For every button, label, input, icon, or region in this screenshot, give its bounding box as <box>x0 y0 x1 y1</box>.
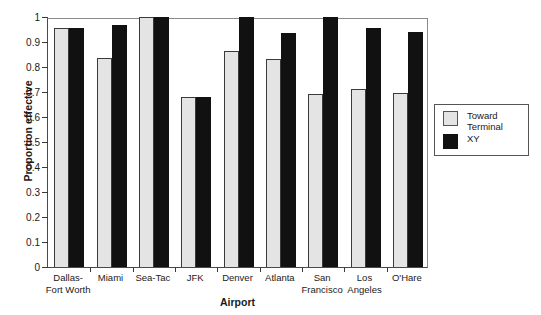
x-category-label: Miami <box>98 272 123 284</box>
bar-xy <box>196 97 211 267</box>
bar-xy <box>366 28 381 267</box>
y-tick-label: 0.4 <box>26 162 40 173</box>
bar-xy <box>69 28 84 267</box>
bar-toward-terminal <box>139 17 154 267</box>
bar-toward-terminal <box>181 97 196 267</box>
y-tick-label: 0.8 <box>26 62 40 73</box>
bar-toward-terminal <box>97 58 112 267</box>
bars-layer <box>48 19 427 267</box>
bar-toward-terminal <box>351 89 366 267</box>
bar-xy <box>112 25 127 267</box>
bar-group <box>266 19 296 267</box>
y-tick-label: 1 <box>34 12 40 23</box>
y-tick-label: 0.7 <box>26 87 40 98</box>
y-tick-label: 0 <box>34 262 40 273</box>
x-category-label: Sea-Tac <box>135 272 170 284</box>
y-tick-label: 0.9 <box>26 37 40 48</box>
bar-xy <box>154 17 169 267</box>
bar-xy <box>323 17 338 267</box>
legend-label-0: Toward Terminal <box>467 111 503 132</box>
y-tick-label: 0.3 <box>26 187 40 198</box>
bar-group <box>224 19 254 267</box>
bar-group <box>393 19 423 267</box>
x-category-label: Los Angeles <box>347 272 381 295</box>
bar-xy <box>408 32 423 267</box>
x-category-label: O'Hare <box>392 272 422 284</box>
legend-swatch-toward-terminal <box>443 111 458 126</box>
bar-group <box>139 19 169 267</box>
y-tick-mark <box>42 17 48 18</box>
bar-group <box>181 19 211 267</box>
bar-toward-terminal <box>54 28 69 267</box>
y-tick-label: 0.1 <box>26 237 40 248</box>
x-category-label: Dallas- Fort Worth <box>46 272 91 295</box>
bar-group <box>97 19 127 267</box>
y-tick-mark <box>42 267 48 268</box>
legend-swatch-xy <box>443 134 458 149</box>
bar-toward-terminal <box>266 59 281 267</box>
bar-chart: Proportion effective 00.10.20.30.40.50.6… <box>0 0 541 315</box>
x-category-label: Atlanta <box>265 272 295 284</box>
bar-group <box>308 19 338 267</box>
plot-area: 00.10.20.30.40.50.60.70.80.91 <box>47 18 428 268</box>
legend-label-1: XY <box>467 134 480 145</box>
bar-group <box>351 19 381 267</box>
legend-item-1: XY <box>443 134 480 149</box>
x-axis-title: Airport <box>47 296 428 308</box>
x-category-label: San Francisco <box>302 272 343 295</box>
legend-item-0: Toward Terminal <box>443 111 503 132</box>
y-tick-label: 0.6 <box>26 112 40 123</box>
bar-xy <box>281 33 296 267</box>
bar-group <box>54 19 84 267</box>
x-category-label: Denver <box>222 272 253 284</box>
bar-toward-terminal <box>308 94 323 267</box>
x-category-label: JFK <box>187 272 204 284</box>
bar-toward-terminal <box>224 51 239 267</box>
bar-xy <box>239 17 254 267</box>
chart-legend: Toward Terminal XY <box>434 104 529 156</box>
y-tick-label: 0.2 <box>26 212 40 223</box>
y-tick-label: 0.5 <box>26 137 40 148</box>
bar-toward-terminal <box>393 93 408 268</box>
